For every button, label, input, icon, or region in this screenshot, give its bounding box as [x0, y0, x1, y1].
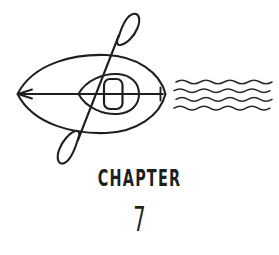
chapter-opener-page: CHAPTER 7 — [0, 0, 279, 255]
paddle-blade-lower-icon — [58, 131, 80, 164]
paddle-blade-upper-icon — [117, 14, 139, 45]
kayak-illustration — [0, 0, 279, 255]
water-waves-icon — [174, 80, 272, 110]
